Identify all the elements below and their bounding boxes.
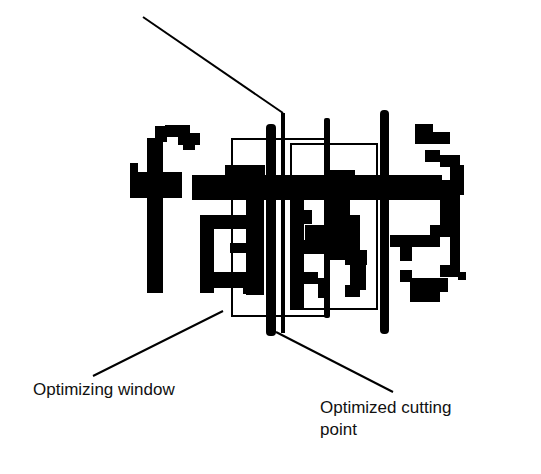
- character-bitmap: [0, 0, 541, 474]
- label-cutting-point-line2: point: [320, 420, 357, 440]
- label-optimizing-window: Optimizing window: [33, 380, 175, 400]
- glyph-strokes: [130, 124, 466, 308]
- label-cutting-point-line1: Optimized cutting: [320, 398, 451, 418]
